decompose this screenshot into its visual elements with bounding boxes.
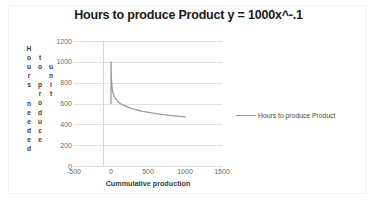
y-axis-title-column-1: to produce <box>35 53 45 144</box>
x-axis-tick-label: 1000 <box>177 168 193 176</box>
chart-screenshot: Hours to produce Product y = 1000x^-.1 0… <box>0 0 377 201</box>
x-axis-tick-label: 1500 <box>214 168 230 176</box>
y-axis-title-column-0: Hours needed <box>24 44 34 153</box>
chart-title: Hours to produce Product y = 1000x^-.1 <box>0 8 377 22</box>
series-line-hours-to-produce-product <box>74 41 222 166</box>
x-axis-tick-label: 0 <box>109 168 113 176</box>
legend-label: Hours to produce Product <box>258 112 335 119</box>
y-axis-title: Hours needed to produce unit <box>24 42 70 172</box>
x-axis-title: Cummulative production <box>74 179 222 188</box>
gridline <box>74 166 222 167</box>
chart-legend: Hours to produce Product <box>236 112 335 119</box>
legend-line-swatch <box>236 115 256 117</box>
plot-area <box>74 41 222 166</box>
x-axis-tick-label: 500 <box>142 168 154 176</box>
y-axis-title-column-2: unit <box>46 62 56 98</box>
